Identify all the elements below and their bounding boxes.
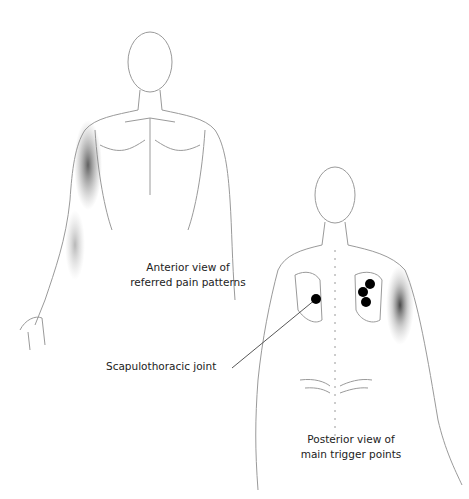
posterior-caption-line1: Posterior view of <box>286 432 416 447</box>
anterior-sternum <box>125 118 175 195</box>
joint-leader-line <box>232 299 316 368</box>
posterior-caption: Posterior view of main trigger points <box>286 432 416 462</box>
trigger-point <box>358 287 368 297</box>
trigger-point <box>311 294 321 304</box>
anterior-caption-line1: Anterior view of <box>108 260 268 275</box>
trigger-point <box>361 297 371 307</box>
posterior-head <box>315 167 355 223</box>
posterior-caption-line2: main trigger points <box>286 447 416 462</box>
anterior-caption: Anterior view of referred pain patterns <box>108 260 268 290</box>
posterior-neck <box>322 222 348 245</box>
anterior-caption-line2: referred pain patterns <box>108 275 268 290</box>
anterior-figure <box>20 32 235 350</box>
anterior-pain-shade-lower <box>65 210 85 280</box>
joint-label: Scapulothoracic joint <box>106 359 216 374</box>
posterior-ribs <box>300 379 372 393</box>
anterior-head <box>128 32 172 92</box>
anterior-hand <box>20 317 45 350</box>
anterior-pain-shade <box>74 120 102 210</box>
trigger-point <box>365 279 375 289</box>
anatomy-diagram: Anterior view of referred pain patterns … <box>0 0 469 499</box>
figure-illustrations <box>0 0 469 499</box>
posterior-pain-shade <box>386 265 414 345</box>
anterior-neck <box>138 90 162 110</box>
